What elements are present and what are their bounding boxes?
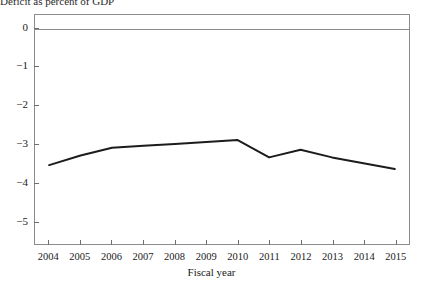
y-axis-tick-label: −4 — [2, 177, 28, 188]
y-axis-tick — [34, 66, 39, 67]
x-axis-tick — [206, 240, 207, 245]
y-axis-tick — [34, 144, 39, 145]
y-axis-tick — [34, 28, 39, 29]
y-axis-tick-label: −3 — [2, 138, 28, 149]
x-axis-tick — [396, 240, 397, 245]
chart-title: Deficit as percent of GDP — [0, 0, 114, 8]
y-axis-tick-label: 0 — [2, 22, 28, 33]
x-axis-tick — [364, 240, 365, 245]
x-axis-tick — [80, 240, 81, 245]
x-axis-tick-label: 2015 — [376, 251, 416, 262]
x-axis-tick — [333, 240, 334, 245]
y-axis-tick-label: −2 — [2, 99, 28, 110]
y-axis-tick — [34, 183, 39, 184]
y-axis-tick-label: −5 — [2, 216, 28, 227]
y-axis-tick-label: −1 — [2, 60, 28, 71]
y-axis-tick — [34, 105, 39, 106]
x-axis-tick — [238, 240, 239, 245]
x-axis-title: Fiscal year — [0, 266, 423, 278]
x-axis-tick — [269, 240, 270, 245]
x-axis-tick — [175, 240, 176, 245]
data-series-line — [35, 15, 409, 244]
x-axis-tick — [111, 240, 112, 245]
y-axis-tick — [34, 222, 39, 223]
x-axis-tick — [143, 240, 144, 245]
x-axis-tick — [301, 240, 302, 245]
x-axis-tick — [48, 240, 49, 245]
plot-area — [34, 14, 410, 245]
